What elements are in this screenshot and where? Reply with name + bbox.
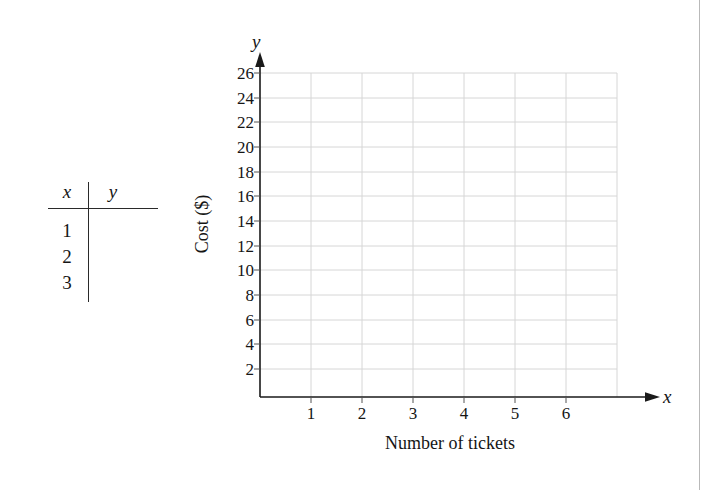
table-row: 3 [54,272,80,294]
y-axis-title: Cost ($) [192,164,212,284]
table-header-x: x [54,180,80,204]
table-row: 1 [54,220,80,242]
page-edge-rule [699,0,700,490]
worksheet-page: x y 1 2 3 [0,0,707,490]
table-header-y: y [100,180,126,204]
x-tick-label: 2 [350,405,374,422]
x-tick-label: 3 [401,405,425,422]
x-tick-label: 6 [554,405,578,422]
x-tick-labels: 1 2 3 4 5 6 [190,24,690,464]
table-row: 2 [54,246,80,268]
table-header-rule [48,208,158,209]
coordinate-graph: y x 26 24 22 20 18 16 14 12 10 8 6 4 2 1… [190,24,690,464]
x-tick-label: 4 [452,405,476,422]
x-tick-label: 1 [299,405,323,422]
x-tick-label: 5 [503,405,527,422]
xy-data-table: x y 1 2 3 [44,176,162,304]
x-axis-title: Number of tickets [290,433,610,453]
table-column-divider [88,182,89,302]
